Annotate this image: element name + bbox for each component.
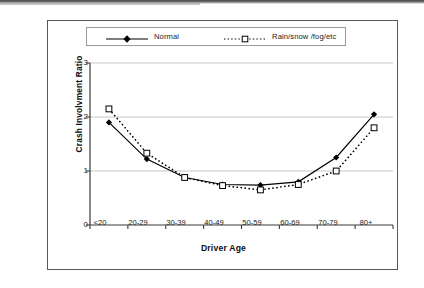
series-layer <box>106 106 377 193</box>
plot-area: Crash Involvment Ratio 3 2 1 0 <20 20-29… <box>48 21 399 271</box>
figure-frame: Normal Rain/snow /fog/etc Crash Involvme… <box>47 20 398 270</box>
chart-canvas <box>48 21 399 271</box>
scan-artifact-band-secondary <box>0 3 200 5</box>
gridlines <box>90 63 393 171</box>
